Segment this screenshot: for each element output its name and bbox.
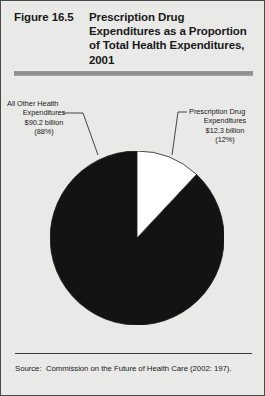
figure-title-line-1: Prescription Drug [89,10,254,24]
figure-title-line-4: 2001 [89,53,254,67]
source-divider-rule [15,353,252,354]
header-divider-bar [14,71,253,76]
callout-other-line-1: All Other Health [7,99,81,108]
callout-other-line-2: Expenditures [7,108,81,117]
figure-title-line-2: Expenditures as a Proportion [89,24,254,38]
figure-panel: Figure 16.5 Prescription Drug Expenditur… [0,0,265,396]
callout-prescription-value: $12.3 billion [189,126,261,135]
callout-prescription-line-1: Prescription Drug [189,107,261,116]
pie-graphic [50,151,224,325]
callout-other-percent: (88%) [7,127,81,136]
figure-title: Prescription Drug Expenditures as a Prop… [89,10,254,67]
figure-title-line-3: of Total Health Expenditures, [89,38,254,52]
pie-chart: All Other Health Expenditures $90.2 bill… [1,79,265,341]
source-label: Source: [15,363,46,374]
callout-all-other-health-expenditures: All Other Health Expenditures $90.2 bill… [7,99,81,136]
source-note: Source: Commission on the Future of Heal… [15,363,255,374]
callout-other-value: $90.2 billion [7,118,81,127]
source-citation: Commission on the Future of Health Care … [46,363,255,374]
callout-prescription-line-2: Expenditures [189,116,261,125]
leader-line-prescription [172,112,187,155]
figure-number: Figure 16.5 [14,10,89,24]
callout-prescription-percent: (12%) [189,135,261,144]
figure-header: Figure 16.5 Prescription Drug Expenditur… [1,1,265,67]
callout-prescription-drug-expenditures: Prescription Drug Expenditures $12.3 bil… [189,107,261,144]
